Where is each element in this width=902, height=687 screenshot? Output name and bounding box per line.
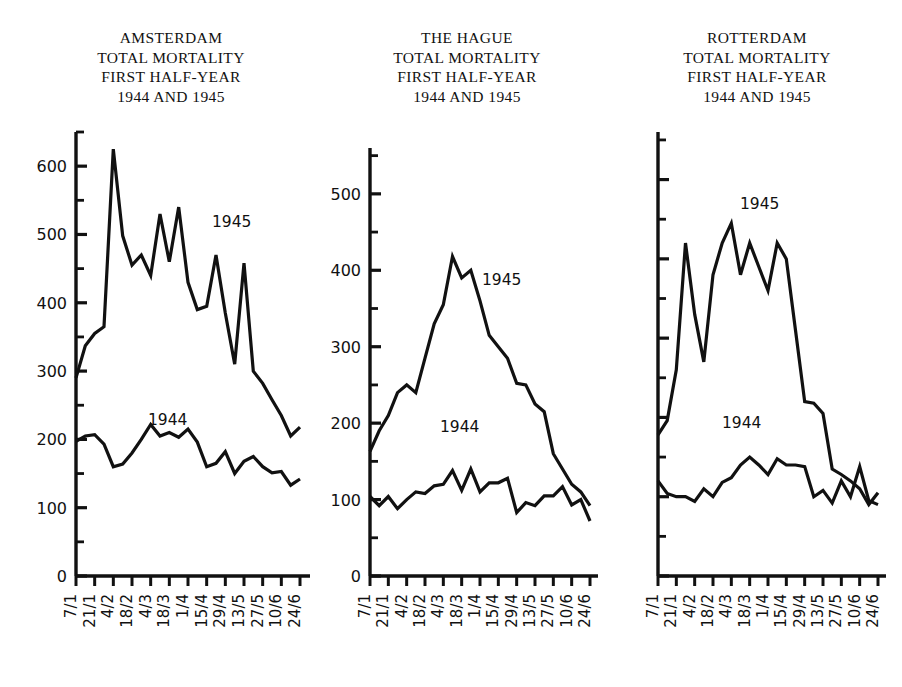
y-tick-label: 300 — [330, 338, 361, 357]
x-tick-label: 21/1 — [662, 594, 680, 628]
x-tick-label: 18/3 — [155, 594, 173, 628]
x-tick-label: 18/2 — [118, 594, 136, 628]
series-line-1944 — [76, 424, 300, 485]
y-tick-label: 200 — [36, 430, 67, 449]
series-line-1945 — [658, 223, 878, 504]
panel-amsterdam: AMSTERDAM TOTAL MORTALITY FIRST HALF-YEA… — [0, 0, 322, 687]
y-tick-label: 100 — [36, 499, 67, 518]
series-label-1945: 1945 — [482, 271, 521, 289]
chart-svg-amsterdam: 01002003004005006007/121/14/218/24/318/3… — [0, 0, 322, 687]
x-tick-label: 27/5 — [249, 594, 267, 628]
y-tick-label: 400 — [36, 294, 67, 313]
x-tick-label: 4/2 — [393, 594, 411, 618]
y-tick-label: 500 — [330, 185, 361, 204]
x-tick-label: 29/4 — [211, 594, 229, 628]
y-tick-label: 0 — [351, 567, 361, 586]
x-tick-label: 24/6 — [864, 594, 882, 628]
series-line-1944 — [370, 469, 590, 521]
series-label-1945: 1945 — [212, 213, 251, 231]
x-tick-label: 1/4 — [174, 594, 192, 618]
x-tick-label: 24/6 — [286, 594, 304, 628]
chart-svg-the-hague: 01002003004005007/121/14/218/24/318/31/4… — [322, 0, 612, 687]
series-label-1944: 1944 — [148, 411, 187, 429]
series-line-1945 — [370, 257, 590, 506]
series-label-1944: 1944 — [722, 414, 761, 432]
y-tick-label: 0 — [57, 567, 67, 586]
x-tick-label: 10/6 — [558, 594, 576, 628]
y-tick-label: 200 — [330, 414, 361, 433]
x-tick-label: 24/6 — [576, 594, 594, 628]
y-tick-label: 300 — [36, 362, 67, 381]
x-tick-label: 15/4 — [772, 594, 790, 628]
y-tick-label: 500 — [36, 225, 67, 244]
series-line-1944 — [658, 457, 878, 505]
x-tick-label: 4/3 — [429, 594, 447, 618]
series-line-1945 — [76, 149, 300, 436]
x-tick-label: 13/5 — [809, 594, 827, 628]
x-tick-label: 21/1 — [81, 594, 99, 628]
x-tick-label: 15/4 — [193, 594, 211, 628]
x-tick-label: 7/1 — [356, 594, 374, 618]
x-tick-label: 18/3 — [736, 594, 754, 628]
x-tick-label: 13/5 — [521, 594, 539, 628]
plot-amsterdam: 01002003004005006007/121/14/218/24/318/3… — [0, 0, 322, 687]
x-tick-label: 10/6 — [846, 594, 864, 628]
x-tick-label: 4/2 — [681, 594, 699, 618]
x-tick-label: 4/2 — [99, 594, 117, 618]
x-tick-label: 4/3 — [137, 594, 155, 618]
x-tick-label: 18/2 — [411, 594, 429, 628]
y-tick-label: 400 — [330, 261, 361, 280]
panel-rotterdam: ROTTERDAM TOTAL MORTALITY FIRST HALF-YEA… — [612, 0, 902, 687]
x-tick-label: 10/6 — [267, 594, 285, 628]
x-tick-label: 7/1 — [644, 594, 662, 618]
x-tick-label: 18/2 — [699, 594, 717, 628]
x-tick-label: 21/1 — [374, 594, 392, 628]
x-tick-label: 18/3 — [448, 594, 466, 628]
x-tick-label: 15/4 — [484, 594, 502, 628]
y-tick-label: 600 — [36, 157, 67, 176]
panel-the-hague: THE HAGUE TOTAL MORTALITY FIRST HALF-YEA… — [322, 0, 612, 687]
plot-the-hague: 01002003004005007/121/14/218/24/318/31/4… — [322, 0, 612, 687]
x-tick-label: 27/5 — [539, 594, 557, 628]
chart-svg-rotterdam: 7/121/14/218/24/318/31/415/429/413/527/5… — [612, 0, 902, 687]
x-tick-label: 4/3 — [717, 594, 735, 618]
series-label-1944: 1944 — [440, 418, 479, 436]
y-tick-label: 100 — [330, 491, 361, 510]
mortality-figure: AMSTERDAM TOTAL MORTALITY FIRST HALF-YEA… — [0, 0, 902, 687]
x-tick-label: 29/4 — [503, 594, 521, 628]
x-tick-label: 1/4 — [754, 594, 772, 618]
x-tick-label: 27/5 — [827, 594, 845, 628]
x-tick-label: 7/1 — [62, 594, 80, 618]
x-tick-label: 29/4 — [791, 594, 809, 628]
x-tick-label: 13/5 — [230, 594, 248, 628]
series-label-1945: 1945 — [740, 195, 779, 213]
x-tick-label: 1/4 — [466, 594, 484, 618]
plot-rotterdam: 7/121/14/218/24/318/31/415/429/413/527/5… — [612, 0, 902, 687]
